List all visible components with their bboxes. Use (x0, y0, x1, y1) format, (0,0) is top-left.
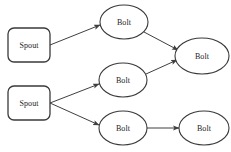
edge-spout2-boltmiddle (50, 84, 99, 103)
node-spout-1[interactable]: Spout (8, 28, 50, 62)
bolt-bottom-right-label: Bolt (197, 124, 212, 133)
spout-2-label: Spout (19, 99, 39, 108)
bolt-right-label: Bolt (195, 52, 210, 61)
bolt-bottom-label: Bolt (116, 124, 131, 133)
node-bolt-middle[interactable]: Bolt (99, 63, 147, 97)
edge-boltmiddle-boltright (146, 60, 177, 74)
node-bolt-bottom-right[interactable]: Bolt (179, 111, 229, 145)
node-bolt-bottom[interactable]: Bolt (99, 111, 147, 145)
topology-canvas: SpoutSpoutBoltBoltBoltBoltBolt (0, 0, 231, 152)
bolt-top-label: Bolt (117, 18, 132, 27)
node-bolt-top[interactable]: Bolt (100, 5, 148, 39)
bolt-middle-label: Bolt (116, 76, 131, 85)
node-bolt-right[interactable]: Bolt (175, 38, 229, 74)
edge-bolttop-boltright (144, 32, 178, 50)
edge-spout2-boltbottom (50, 103, 99, 125)
spout-1-label: Spout (19, 41, 39, 50)
edge-spout1-bolttop (50, 25, 100, 45)
node-layer: SpoutSpoutBoltBoltBoltBoltBolt (8, 5, 229, 145)
topology-diagram: SpoutSpoutBoltBoltBoltBoltBolt (0, 0, 231, 152)
node-spout-2[interactable]: Spout (8, 86, 50, 120)
